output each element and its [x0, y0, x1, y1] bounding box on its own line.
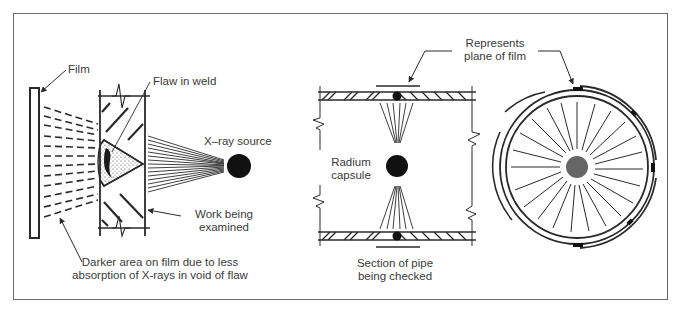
label-flaw-in-weld: Flaw in weld — [153, 75, 216, 88]
film-strip — [30, 88, 39, 238]
center-source — [566, 156, 588, 178]
label-radium-capsule: Radium capsule — [326, 156, 376, 182]
label-darker-area: Darker area on film due to less absorpti… — [60, 256, 260, 282]
xray-source — [227, 154, 251, 178]
radium-capsule — [386, 155, 408, 177]
pipe-circular-panel — [493, 86, 656, 248]
label-work-being-examined: Work being examined — [184, 208, 264, 234]
pipe-section-panel — [313, 51, 573, 247]
label-xray-source: X–ray source — [204, 135, 272, 148]
label-film: Film — [68, 63, 90, 76]
label-section-of-pipe: Section of pipe being checked — [345, 257, 445, 283]
label-represents-plane-of-film: Represents plane of film — [450, 37, 540, 63]
